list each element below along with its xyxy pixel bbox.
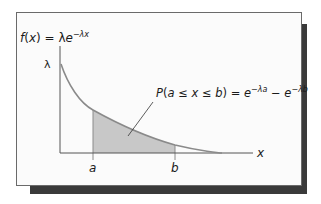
probability-label: P(a ≤ x ≤ b) = e−λa − e−λb: [156, 85, 308, 100]
function-label: f(x) = λe−λx: [20, 30, 89, 45]
label-pointer-line: [128, 102, 153, 136]
lower-bound-label: a: [89, 161, 96, 175]
upper-bound-label: b: [171, 161, 179, 175]
y-intercept-label: λ: [44, 58, 51, 71]
x-axis-label: x: [256, 146, 265, 160]
exponential-density-diagram: f(x) = λe−λx λ x a b P(a ≤ x ≤ b) = e−λa…: [0, 0, 321, 204]
